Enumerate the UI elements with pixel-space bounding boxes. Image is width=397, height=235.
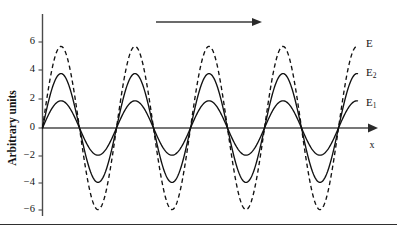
curve-label-e1-subscript: 1 xyxy=(373,101,377,110)
y-tick-label-4: 4 xyxy=(30,63,36,74)
y-tick-label-0: 0 xyxy=(30,121,35,132)
y-tick-label-minus-6: −6 xyxy=(24,203,35,214)
curve-labels: E E2 E1 xyxy=(366,37,377,110)
y-tick-label-6: 6 xyxy=(30,35,35,46)
y-axis-title: Arbitrary units xyxy=(6,90,19,166)
y-axis-tick-labels: 6 4 2 0 −2 −4 −6 xyxy=(24,35,36,214)
curve-label-e2-subscript: 2 xyxy=(373,71,377,80)
x-axis xyxy=(43,124,379,133)
y-tick-label-2: 2 xyxy=(30,92,35,103)
propagation-direction-arrow xyxy=(156,18,262,26)
figure-container: 6 4 2 0 −2 −4 −6 Arbitrary units x E E2 … xyxy=(0,0,397,235)
curve-label-e2: E2 xyxy=(366,66,377,80)
sine-wave-chart: 6 4 2 0 −2 −4 −6 Arbitrary units x E E2 … xyxy=(0,0,397,235)
direction-arrow-head xyxy=(252,18,262,26)
x-axis-title: x xyxy=(370,139,375,150)
y-tick-label-minus-2: −2 xyxy=(24,149,35,160)
curve-label-e-total: E xyxy=(366,37,373,49)
x-axis-arrow-head xyxy=(368,124,378,133)
y-tick-label-minus-4: −4 xyxy=(24,176,36,187)
curve-label-e1: E1 xyxy=(366,96,377,110)
